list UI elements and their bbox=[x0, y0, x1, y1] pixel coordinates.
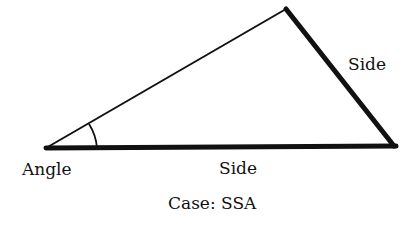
thin-side bbox=[46, 9, 286, 148]
angle-label: Angle bbox=[22, 161, 72, 178]
bold-side-bottom bbox=[46, 146, 396, 148]
case-caption: Case: SSA bbox=[168, 195, 256, 212]
side-bottom-label: Side bbox=[219, 160, 257, 177]
side-right-label: Side bbox=[348, 56, 386, 73]
angle-arc bbox=[89, 124, 97, 148]
bold-side-right bbox=[286, 9, 394, 146]
